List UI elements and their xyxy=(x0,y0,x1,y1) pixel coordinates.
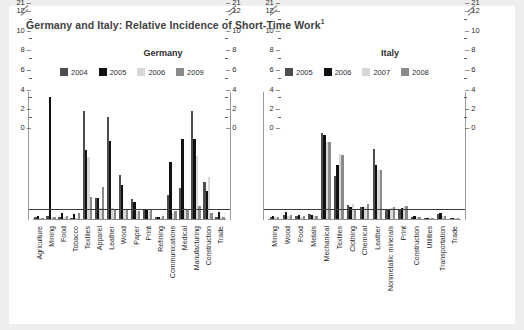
legend-item-2008[interactable]: 2008 xyxy=(401,68,429,77)
y-tick-label-8: – 8 xyxy=(226,45,236,54)
x-axis-label-text: Leather xyxy=(108,226,115,250)
bar-group-manufacturing[interactable] xyxy=(190,92,202,219)
bar-group-leather[interactable] xyxy=(105,92,117,219)
bar-group-construction[interactable] xyxy=(409,92,422,219)
bar-group-food[interactable] xyxy=(57,92,69,219)
bar-group-transportation[interactable] xyxy=(435,92,448,219)
x-axis-label-text: Textiles xyxy=(84,226,91,249)
page-margin-right xyxy=(515,0,524,330)
y-tick-minor xyxy=(29,97,32,98)
x-axis-label-text: Food xyxy=(297,226,304,242)
legend-item-2005[interactable]: 2005 xyxy=(285,68,313,77)
bar-2009-paper[interactable] xyxy=(138,211,140,219)
bar-2008-clothing[interactable] xyxy=(354,209,356,219)
x-axis-label-mining: Mining xyxy=(268,224,281,324)
legend-swatch-2005 xyxy=(285,68,293,76)
bar-group-trade[interactable] xyxy=(448,92,461,219)
bar-group-wood[interactable] xyxy=(117,92,129,219)
x-axis-label-text: Print xyxy=(400,226,407,240)
x-axis-germany xyxy=(33,219,226,220)
bar-group-paper[interactable] xyxy=(130,92,142,219)
x-axis-label-text: Textiles xyxy=(335,226,342,249)
bar-2008-mechanical[interactable] xyxy=(328,142,330,219)
x-axis-italy xyxy=(268,219,461,220)
y-tick-label-6: – 6 xyxy=(226,65,236,74)
y-tick-minor xyxy=(225,38,228,39)
bar-2005-mining[interactable] xyxy=(49,97,51,219)
bar-group-agriculture[interactable] xyxy=(33,92,45,219)
bar-group-medical[interactable] xyxy=(178,92,190,219)
bar-2009-print[interactable] xyxy=(150,209,152,219)
x-axis-label-paper: Paper xyxy=(130,224,142,324)
bar-group-chemical[interactable] xyxy=(358,92,371,219)
bar-group-metals[interactable] xyxy=(307,92,320,219)
y-tick-minor xyxy=(278,19,281,20)
legend-germany: 2004200520062009 xyxy=(60,66,204,78)
bar-group-leather[interactable] xyxy=(371,92,384,219)
y-tick-minor xyxy=(225,58,228,59)
x-axis-label-apparel: Apparel xyxy=(93,224,105,324)
bar-2009-communications[interactable] xyxy=(174,211,176,219)
x-axis-label-text: Transportation xyxy=(438,226,445,271)
y-tick-minor xyxy=(278,58,281,59)
x-axis-label-text: Apparel xyxy=(96,226,103,250)
bar-2009-apparel[interactable] xyxy=(102,187,104,219)
y-tick-label-2: – 2 xyxy=(226,104,236,113)
legend-item-2006[interactable]: 2006 xyxy=(137,68,165,77)
bar-group-tobacco[interactable] xyxy=(69,92,81,219)
bar-group-wood[interactable] xyxy=(281,92,294,219)
y-tick-label-2: 2 – xyxy=(270,104,280,113)
y-tick-label-2: – 2 xyxy=(465,104,475,113)
bar-2008-print[interactable] xyxy=(405,206,407,219)
y-axis-left: 0 –2 –4 –6 –8 –10 –12 –21 – xyxy=(3,0,33,128)
bar-group-textiles[interactable] xyxy=(81,92,93,219)
bar-2008-leather[interactable] xyxy=(380,170,382,219)
x-axis-label-text: Leather xyxy=(374,226,381,250)
legend-item-2004[interactable]: 2004 xyxy=(60,68,88,77)
x-axis-label-transportation: Transportation xyxy=(435,224,448,324)
legend-item-2007[interactable]: 2007 xyxy=(362,68,390,77)
bar-group-refining[interactable] xyxy=(154,92,166,219)
x-axis-label-agriculture: Agriculture xyxy=(33,224,45,324)
bar-2009-manufacturing[interactable] xyxy=(198,206,200,219)
bar-2009-leather[interactable] xyxy=(114,209,116,219)
y-tick-label-21: 21 – xyxy=(16,0,31,7)
axis-break-marker xyxy=(269,7,278,14)
legend-item-2006[interactable]: 2006 xyxy=(324,68,352,77)
y-tick-label-10: 10 – xyxy=(16,26,31,35)
legend-item-2005[interactable]: 2005 xyxy=(99,68,127,77)
legend-swatch-2008 xyxy=(401,68,409,76)
bar-group-communications[interactable] xyxy=(166,92,178,219)
bar-group-textiles[interactable] xyxy=(332,92,345,219)
x-axis-label-textiles: Textiles xyxy=(332,224,345,324)
x-axis-label-text: Medical xyxy=(180,226,187,250)
y-tick-label-6: – 6 xyxy=(465,65,475,74)
bar-2008-chemical[interactable] xyxy=(367,204,369,219)
bar-group-utilities[interactable] xyxy=(422,92,435,219)
y-tick-minor xyxy=(278,78,281,79)
bar-group-nonmetallic-minerals[interactable] xyxy=(384,92,397,219)
legend-item-2009[interactable]: 2009 xyxy=(176,68,204,77)
axis-break-marker xyxy=(467,7,476,14)
bar-group-food[interactable] xyxy=(294,92,307,219)
bar-2009-medical[interactable] xyxy=(186,210,188,219)
bar-group-clothing[interactable] xyxy=(345,92,358,219)
bar-2005-communications[interactable] xyxy=(169,162,171,219)
x-axis-labels-italy: MiningWoodFoodMetalsMechanicalTextilesCl… xyxy=(268,224,461,324)
plot-area-germany xyxy=(33,92,226,220)
bar-group-mining[interactable] xyxy=(45,92,57,219)
bar-group-mechanical[interactable] xyxy=(319,92,332,219)
reference-line-italy xyxy=(264,209,465,210)
x-axis-label-text: Agriculture xyxy=(36,226,43,259)
legend-swatch-2006 xyxy=(137,68,145,76)
bar-group-construction[interactable] xyxy=(202,92,214,219)
bar-2009-wood[interactable] xyxy=(126,209,128,219)
y-tick-label-10: – 10 xyxy=(465,26,480,35)
x-axis-label-mechanical: Mechanical xyxy=(319,224,332,324)
bar-2005-medical[interactable] xyxy=(181,139,183,219)
bar-group-apparel[interactable] xyxy=(93,92,105,219)
bar-group-print[interactable] xyxy=(397,92,410,219)
x-axis-label-text: Refining xyxy=(156,226,163,252)
bar-group-print[interactable] xyxy=(142,92,154,219)
chart-italy xyxy=(268,92,461,220)
